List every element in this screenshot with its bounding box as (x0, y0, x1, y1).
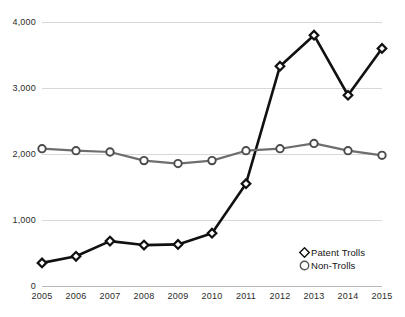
data-point-marker (344, 147, 351, 154)
y-tick-label: 3,000 (12, 83, 36, 93)
data-point-marker (38, 145, 45, 152)
y-tick-label: 4,000 (12, 17, 36, 27)
data-point-marker (140, 241, 149, 250)
data-point-marker (242, 147, 249, 154)
data-point-marker (310, 140, 317, 147)
data-point-marker (72, 252, 81, 261)
data-point-marker (174, 240, 183, 249)
data-point-marker (276, 145, 283, 152)
line-chart: 01,0002,0003,0004,000 200520062007200820… (0, 0, 405, 317)
diamond-marker-icon (297, 246, 311, 259)
chart-legend: Patent Trolls Non-Trolls (297, 246, 365, 272)
data-point-marker (174, 160, 181, 167)
circle-marker-icon (297, 259, 311, 272)
data-point-marker (106, 148, 113, 155)
x-axis-labels: 2005200620072008200920102011201220132014… (42, 291, 382, 307)
x-tick-label: 2011 (236, 291, 256, 301)
y-axis-labels: 01,0002,0003,0004,000 (0, 22, 36, 286)
x-tick-label: 2012 (270, 291, 291, 301)
y-tick-label: 2,000 (12, 149, 36, 159)
legend-label-patent-trolls: Patent Trolls (311, 247, 365, 258)
x-tick-label: 2010 (202, 291, 223, 301)
data-point-marker (140, 157, 147, 164)
data-point-marker (208, 157, 215, 164)
x-tick-label: 2006 (66, 291, 87, 301)
x-tick-label: 2013 (304, 291, 325, 301)
data-point-marker (72, 147, 79, 154)
y-tick-label: 1,000 (12, 215, 36, 225)
legend-item-patent-trolls: Patent Trolls (297, 246, 365, 259)
legend-label-non-trolls: Non-Trolls (311, 260, 355, 271)
data-point-marker (106, 237, 115, 246)
y-tick-label: 0 (31, 281, 36, 291)
x-tick-label: 2007 (100, 291, 121, 301)
x-tick-label: 2009 (168, 291, 189, 301)
x-tick-label: 2008 (134, 291, 155, 301)
legend-item-non-trolls: Non-Trolls (297, 259, 365, 272)
x-tick-label: 2015 (372, 291, 393, 301)
data-point-marker (378, 152, 385, 159)
gridline-0 (42, 286, 382, 287)
x-tick-label: 2005 (32, 291, 53, 301)
data-point-marker (38, 259, 47, 268)
x-tick-label: 2014 (338, 291, 359, 301)
